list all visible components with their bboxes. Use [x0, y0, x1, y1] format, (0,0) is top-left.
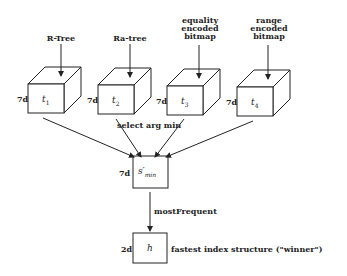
dim-t1: 7d [17, 94, 28, 104]
cube-t2 [98, 68, 151, 114]
most-frequent-label: mostFrequent [154, 207, 217, 215]
label-equality-bitmap: equality encoded bitmap [174, 16, 226, 40]
select-argmin-label: select arg min [117, 121, 181, 129]
var-t4: t4 [251, 97, 258, 109]
var-t1: t1 [42, 94, 49, 106]
cube-t1 [28, 67, 81, 113]
dim-smin: 7d [119, 168, 130, 178]
label-ratree: Ra-tree [107, 34, 153, 42]
winner-caption: fastest index structure ("winner") [171, 245, 322, 253]
dim-t4: 7d [226, 97, 237, 107]
cube-t3 [167, 69, 220, 115]
label-rtree: R-Tree [38, 34, 84, 42]
var-smin: s′min [138, 166, 156, 178]
dim-t2: 7d [87, 95, 98, 105]
cube-t4 [237, 70, 290, 116]
var-h: h [147, 243, 153, 253]
var-t3: t3 [181, 96, 188, 108]
dim-h: 2d [121, 244, 132, 254]
label-range-bitmap: range encoded bitmap [243, 16, 295, 40]
var-t2: t2 [112, 95, 119, 107]
dim-t3: 7d [156, 96, 167, 106]
